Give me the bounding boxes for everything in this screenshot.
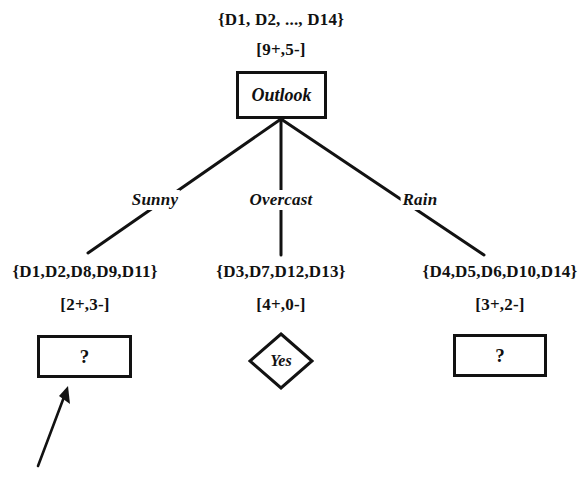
edge-line-sunny	[88, 119, 281, 253]
pointer-arrow-icon	[38, 386, 70, 466]
root-set-label: {D1, D2, ..., D14}	[218, 10, 344, 30]
sunny-leaf-label: ?	[80, 346, 90, 368]
overcast-set-label: {D3,D7,D12,D13}	[216, 262, 345, 282]
rain-leaf-node[interactable]: ?	[453, 334, 547, 377]
edge-label-overcast: Overcast	[248, 190, 315, 210]
rain-count-label: [3+,2-]	[475, 295, 524, 315]
edge-line-rain	[281, 119, 484, 255]
overcast-count-label: [4+,0-]	[256, 295, 305, 315]
sunny-set-label: {D1,D2,D8,D9,D11}	[12, 262, 157, 282]
rain-leaf-label: ?	[495, 345, 505, 367]
overcast-leaf-label: Yes	[270, 352, 291, 370]
edge-label-rain: Rain	[401, 190, 440, 210]
root-count-label: [9+,5-]	[256, 40, 305, 60]
overcast-leaf-node[interactable]: Yes	[248, 332, 314, 390]
rain-set-label: {D4,D5,D6,D10,D14}	[423, 262, 578, 282]
root-node-outlook[interactable]: Outlook	[236, 71, 327, 119]
sunny-leaf-node[interactable]: ?	[37, 335, 132, 378]
edge-label-sunny: Sunny	[130, 190, 180, 210]
decision-tree-diagram: {D1, D2, ..., D14} [9+,5-] Outlook Sunny…	[0, 0, 583, 479]
root-node-label: Outlook	[251, 85, 311, 106]
sunny-count-label: [2+,3-]	[60, 295, 109, 315]
